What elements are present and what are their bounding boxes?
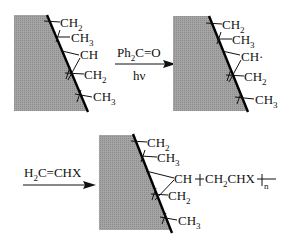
reagent-vinyl-monomer: H2C=CHX (24, 165, 82, 183)
panel-2-radical-surface: CH2 CH3 CH· CH2 CH3 (173, 16, 278, 112)
group-ch2-lower: CH2 (84, 67, 107, 85)
group-ch-middle: CH (80, 47, 98, 62)
group-ch3-bottom: CH3 (93, 89, 116, 107)
group-ch-graft-site: CH (174, 171, 192, 186)
group-ch3-upper: CH3 (71, 30, 94, 48)
graft-chain: CH2CHX n (195, 171, 276, 191)
panel-3-grafted-surface: CH2 CH3 CH CH2 CH3 CH2CHX n (99, 134, 276, 233)
condition-light: hν (133, 68, 146, 83)
panel-1-polymer-surface: CH2 CH3 CH CH2 CH3 (14, 15, 116, 112)
group-ch3-upper: CH3 (157, 150, 180, 168)
reaction-arrow-2: H2C=CHX (23, 165, 96, 189)
group-ch3-bottom: CH3 (178, 213, 201, 231)
reaction-arrow-1: Ph2C=O hν (115, 45, 176, 83)
repeat-count-n: n (264, 181, 269, 191)
reaction-diagram: CH2 CH3 CH CH2 CH3 Ph2C=O hν CH2 CH3 CH·… (0, 0, 288, 238)
group-ch3-bottom: CH3 (255, 92, 278, 110)
group-ch2-lower: CH2 (168, 188, 191, 206)
group-ch3-upper: CH3 (232, 32, 255, 50)
group-ch-radical: CH· (241, 49, 263, 64)
group-ch2-lower: CH2 (244, 69, 267, 87)
repeat-unit: CH2CHX (205, 171, 256, 189)
reagent-benzophenone: Ph2C=O (117, 45, 161, 63)
